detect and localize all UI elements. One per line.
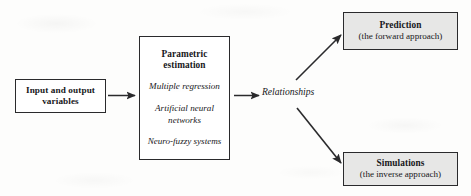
node-input-and-output-variables[interactable]: Input and output variables xyxy=(15,79,106,113)
method-item: Artificial neural networks xyxy=(140,103,229,126)
diagram-canvas: Input and output variables Parametric es… xyxy=(0,0,471,196)
method-item: Multiple regression xyxy=(140,81,229,93)
node-parametric-estimation[interactable]: Parametric estimation Multiple regressio… xyxy=(139,36,230,160)
parametric-method-list: Multiple regression Artificial neural ne… xyxy=(140,71,229,147)
node-simulations[interactable]: Simulations (the inverse approach) xyxy=(343,152,458,186)
method-item: Neuro-fuzzy systems xyxy=(140,136,229,148)
node-parametric-title-line1: Parametric xyxy=(162,49,208,60)
node-simulations-subtitle: (the inverse approach) xyxy=(360,169,441,180)
node-prediction-subtitle: (the forward approach) xyxy=(359,31,443,42)
node-simulations-title: Simulations xyxy=(376,158,424,169)
node-prediction[interactable]: Prediction (the forward approach) xyxy=(343,12,458,50)
arrow-relationships-to-simulations xyxy=(297,108,341,163)
node-input-label-line2: variables xyxy=(42,96,79,107)
node-input-label-line1: Input and output xyxy=(26,85,95,96)
node-prediction-title: Prediction xyxy=(379,20,421,31)
node-parametric-title-line2: estimation xyxy=(163,60,205,71)
node-relationships-label: Relationships xyxy=(262,86,314,97)
arrow-relationships-to-prediction xyxy=(296,35,341,80)
